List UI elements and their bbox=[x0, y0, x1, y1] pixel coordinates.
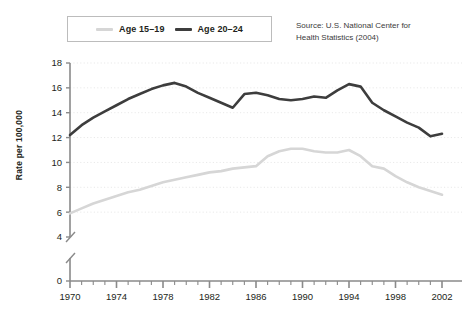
y-axis-tick-label: 6 bbox=[57, 207, 62, 218]
x-axis-tick-label: 1994 bbox=[338, 291, 359, 302]
y-axis-tick-label: 8 bbox=[57, 182, 62, 193]
y-axis-tick-label: 18 bbox=[51, 57, 62, 68]
data-series bbox=[70, 83, 442, 214]
x-axis-tick-label: 1998 bbox=[385, 291, 406, 302]
x-axis-tick-label: 1982 bbox=[199, 291, 220, 302]
x-axis: 197019741978198219861990199419982002 bbox=[59, 281, 462, 302]
series-line-age-15-19 bbox=[70, 149, 442, 214]
x-axis-tick-label: 1970 bbox=[59, 291, 80, 302]
x-axis-tick-label: 1990 bbox=[292, 291, 313, 302]
y-axis-tick-label: 12 bbox=[51, 132, 62, 143]
x-axis-tick-label: 2002 bbox=[431, 291, 452, 302]
y-axis-tick-label: 14 bbox=[51, 107, 62, 118]
y-axis-tick-label: 16 bbox=[51, 82, 62, 93]
chart-plot-area: 04681012141618 1970197419781982198619901… bbox=[0, 0, 470, 318]
x-axis-tick-label: 1978 bbox=[152, 291, 173, 302]
y-axis-tick-label: 10 bbox=[51, 157, 62, 168]
gridlines bbox=[70, 63, 462, 212]
y-axis: 04681012141618 bbox=[51, 57, 75, 286]
series-line-age-20-24 bbox=[70, 83, 442, 136]
chart-container: Age 15–19 Age 20–24 Source: U.S. Nationa… bbox=[0, 0, 470, 318]
x-axis-tick-label: 1974 bbox=[106, 291, 127, 302]
y-axis-tick-label: 0 bbox=[57, 275, 62, 286]
x-axis-tick-label: 1986 bbox=[245, 291, 266, 302]
y-axis-tick-label: 4 bbox=[57, 231, 62, 242]
